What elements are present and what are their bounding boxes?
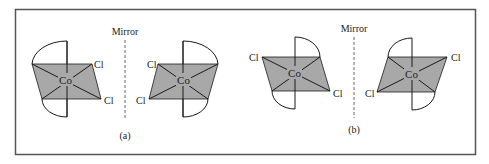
chloride-label: Cl <box>333 88 343 99</box>
chelate-ring-top <box>32 41 67 64</box>
chelate-ring-bottom <box>183 99 208 117</box>
panel-label: (b) <box>348 124 360 136</box>
chelate-ring-bottom <box>272 91 295 109</box>
chelate-ring-bottom <box>412 92 435 110</box>
panel-label: (a) <box>119 130 130 142</box>
chloride-label: Cl <box>451 52 461 63</box>
molecule-a-right: Co Cl Cl <box>136 41 218 117</box>
cobalt-label: Co <box>59 74 72 86</box>
panel-a: Co Cl Cl Mirror (a) Co Cl Cl <box>32 26 218 142</box>
molecule-b-left: Co Cl Cl <box>249 37 343 109</box>
chelate-ring-top <box>295 37 320 57</box>
mirror-label: Mirror <box>112 26 139 37</box>
molecule-a-left: Co Cl Cl <box>32 41 114 117</box>
chloride-label: Cl <box>249 52 259 63</box>
chloride-label: Cl <box>365 88 375 99</box>
chelate-ring-bottom <box>42 99 67 117</box>
mirror-label: Mirror <box>341 23 368 34</box>
cobalt-label: Co <box>288 67 301 79</box>
chloride-label: Cl <box>104 95 114 106</box>
panel-b: Co Cl Cl Mirror (b) Co Cl Cl <box>249 23 461 136</box>
cobalt-label: Co <box>405 68 418 80</box>
cobalt-label: Co <box>177 74 190 86</box>
enantiomer-diagram: Co Cl Cl Mirror (a) Co Cl Cl <box>0 0 489 164</box>
chelate-ring-top <box>183 41 218 64</box>
chelate-ring-top <box>388 38 412 57</box>
molecule-b-right: Co Cl Cl <box>365 38 461 110</box>
chloride-label: Cl <box>147 59 157 70</box>
chloride-label: Cl <box>94 59 104 70</box>
chloride-label: Cl <box>136 95 146 106</box>
